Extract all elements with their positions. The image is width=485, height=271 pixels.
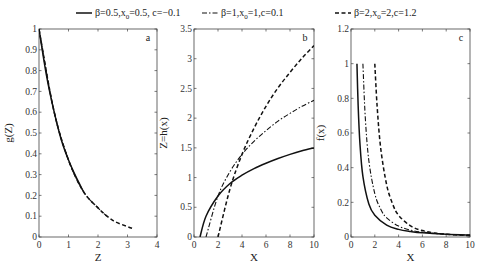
- x-tick-label: 6: [420, 240, 425, 250]
- panel-a: 0123400.10.20.30.40.50.60.70.80.91Zg(Z)a: [2, 24, 160, 263]
- y-tick-label: 2: [187, 113, 192, 123]
- y-tick-label: 0.5: [180, 202, 192, 212]
- x-tick-label: 4: [240, 240, 245, 250]
- x-tick-label: 4: [396, 240, 401, 250]
- y-tick-label: 0.8: [25, 66, 37, 76]
- y-axis-label: g(Z): [2, 123, 15, 143]
- x-tick-label: 2: [372, 240, 377, 250]
- series-line-dashed: [375, 64, 470, 236]
- legend: β=0.5,x0=0.5, c=−0.1β=1,x0=1,c=0.1β=2,x0…: [76, 7, 416, 21]
- y-tick-label: 0.4: [337, 163, 349, 173]
- x-tick-label: 1: [66, 240, 71, 250]
- x-tick-label: 0: [192, 240, 197, 250]
- series-line-dashdot: [39, 29, 107, 216]
- x-axis-label: Z: [95, 251, 102, 263]
- legend-label: β=2,x0=2,c=1.2: [354, 7, 416, 21]
- y-tick-label: 0: [344, 232, 349, 242]
- y-tick-label: 0.3: [25, 170, 37, 180]
- x-tick-label: 10: [465, 240, 475, 250]
- y-tick-label: 0: [32, 232, 37, 242]
- panel-tag: b: [303, 32, 308, 43]
- y-tick-label: 1: [344, 59, 349, 69]
- x-tick-label: 4: [155, 240, 160, 250]
- y-axis-label: f(x): [314, 124, 327, 141]
- plot-frame: [39, 29, 157, 237]
- panel-tag: c: [459, 32, 464, 43]
- x-tick-label: 2: [216, 240, 221, 250]
- y-tick-label: 3: [187, 54, 192, 64]
- y-tick-label: 0.4: [25, 149, 37, 159]
- series-line-dashdot: [363, 64, 470, 236]
- figure: β=0.5,x0=0.5, c=−0.1β=1,x0=1,c=0.1β=2,x0…: [0, 0, 485, 271]
- legend-label: β=0.5,x0=0.5, c=−0.1: [95, 7, 181, 21]
- x-tick-label: 6: [264, 240, 269, 250]
- series-line-dashed: [39, 29, 133, 229]
- panel-b: 024681000.511.522.533.5XZ=h(x)b: [157, 24, 319, 263]
- y-tick-label: 0.1: [25, 211, 37, 221]
- x-tick-label: 10: [309, 240, 319, 250]
- series-line-solid: [39, 29, 83, 191]
- legend-label: β=1,x0=1,c=0.1: [221, 7, 283, 21]
- y-tick-label: 0.2: [337, 198, 349, 208]
- y-tick-label: 0.7: [25, 87, 37, 97]
- panel-tag: a: [146, 32, 151, 43]
- y-axis-label: Z=h(x): [157, 117, 170, 149]
- x-tick-label: 3: [125, 240, 130, 250]
- y-tick-label: 2.5: [180, 84, 192, 94]
- y-tick-label: 0.9: [25, 45, 37, 55]
- x-tick-label: 8: [444, 240, 449, 250]
- x-axis-label: X: [407, 251, 415, 263]
- series-line-solid: [357, 64, 470, 235]
- x-tick-label: 2: [96, 240, 101, 250]
- x-tick-label: 0: [349, 240, 354, 250]
- series-line-dashed: [218, 46, 314, 237]
- y-tick-label: 0.6: [25, 107, 37, 117]
- series-line-solid: [200, 148, 314, 237]
- y-tick-label: 1: [32, 24, 37, 34]
- y-tick-label: 0.6: [337, 128, 349, 138]
- y-tick-label: 0.8: [337, 94, 349, 104]
- x-tick-label: 8: [288, 240, 293, 250]
- y-tick-label: 1: [187, 173, 192, 183]
- x-tick-label: 0: [37, 240, 42, 250]
- y-tick-label: 0.5: [25, 128, 37, 138]
- y-tick-label: 0: [187, 232, 192, 242]
- y-tick-label: 0.2: [25, 191, 37, 201]
- y-tick-label: 1.2: [337, 24, 349, 34]
- panel-c: 024681000.20.40.60.811.2Xf(x)c: [314, 24, 475, 263]
- x-axis-label: X: [250, 251, 258, 263]
- y-tick-label: 1.5: [180, 143, 192, 153]
- y-tick-label: 3.5: [180, 24, 192, 34]
